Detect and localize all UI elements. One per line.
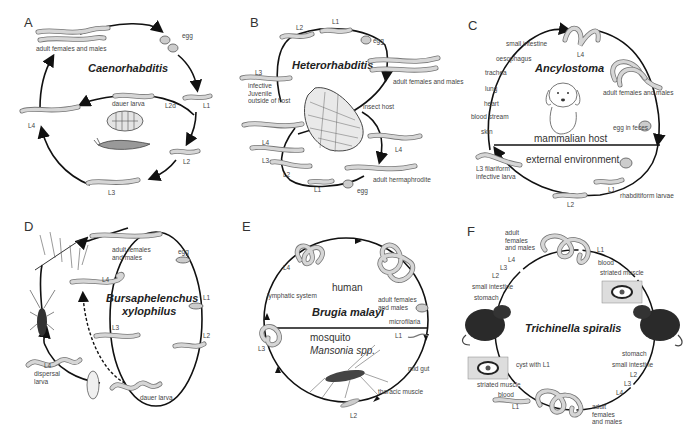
muscle-cyst-illustration-bottom <box>468 357 508 379</box>
organism-title-d-line1: Bursaphelenchus <box>106 292 198 304</box>
label-e-human: human <box>332 282 363 293</box>
egg-icon <box>343 180 353 188</box>
panel-letter-b: B <box>250 15 259 30</box>
nematode-life-cycle-figure: A adult females and males egg Caenorhabd… <box>0 0 688 439</box>
label-f-cyst: cyst with L1 <box>516 361 550 369</box>
arrow-l1-to-l2 <box>188 112 196 142</box>
label-f-l2-top: L2 <box>492 272 500 279</box>
label-c-adults: adult females and males <box>603 89 674 96</box>
label-b-herm: adult hermaphrodite <box>373 176 431 184</box>
label-c-small-intestine: small intestine <box>506 40 548 47</box>
arrow-l2-to-l3 <box>152 160 176 178</box>
panel-letter-e: E <box>242 219 251 234</box>
label-f-l4-top: L4 <box>508 256 516 263</box>
label-a-dauer: dauer larva <box>112 100 145 107</box>
label-a-l3: L3 <box>108 189 116 196</box>
trichinella-adults-bottom <box>538 391 581 415</box>
label-c-lung: lung <box>485 85 498 93</box>
label-d-egg: egg <box>178 248 189 256</box>
organism-title-c: Ancylostoma <box>534 62 604 74</box>
egg-icon <box>361 36 371 44</box>
organism-title-d-line2: xylophilus <box>121 305 176 317</box>
label-f-adults-top: adult females and males <box>505 229 555 257</box>
label-e-mosquito: mosquito <box>310 332 351 343</box>
label-c-rhabditiform: rhabditiform larvae <box>620 192 674 199</box>
label-b-l1-top: L1 <box>332 18 340 25</box>
beetle-illustration <box>30 290 55 336</box>
label-f-l3-right: L3 <box>624 380 632 387</box>
label-e-midgut: mid gut <box>408 365 430 373</box>
label-e-l2: L2 <box>350 412 358 419</box>
label-f-blood-top: blood <box>598 259 614 266</box>
label-e-mansonia: Mansonia spp. <box>310 345 375 356</box>
line-d-beetle <box>41 265 43 310</box>
label-f-striated-muscle-bottom: striated muscle <box>477 381 521 388</box>
label-f-l4-right: L4 <box>616 389 624 396</box>
organism-title-b: Heterorhabditis <box>292 59 373 71</box>
label-c-l2: L2 <box>567 201 575 208</box>
rat-illustration-left <box>463 305 511 345</box>
egg-icon <box>620 158 632 168</box>
label-f-l1-bottom: L1 <box>512 403 520 410</box>
label-f-l1-top: L1 <box>597 246 605 253</box>
label-a-l2d: L2d <box>165 102 176 109</box>
panel-a: A adult females and males egg Caenorhabd… <box>22 15 211 196</box>
egg-icon <box>168 44 178 52</box>
label-b-egg-bottom: egg <box>357 187 368 195</box>
adult-worms-a <box>38 28 108 40</box>
label-b-egg-top: egg <box>373 37 384 45</box>
arrow-egg-to-l1 <box>178 55 197 88</box>
puppy-illustration <box>546 83 580 134</box>
label-e-l3: L3 <box>258 345 266 352</box>
label-d-l4: L4 <box>102 276 110 283</box>
label-b-infective-juvenile: infective Juvenile outside of host <box>248 82 292 118</box>
label-d-adults: adult females and males <box>112 246 162 266</box>
label-c-mammalian-host: mammalian host <box>534 133 608 144</box>
label-f-l2-right: L2 <box>630 371 638 378</box>
hookworm-adults-illustration <box>565 28 660 88</box>
label-e-l1: L1 <box>395 332 403 339</box>
label-d-l1: L1 <box>203 294 211 301</box>
label-a-egg: egg <box>182 32 193 40</box>
insect-grub-illustration <box>304 88 363 152</box>
label-d-dispersal-larva: dispersal larva <box>34 370 74 390</box>
rat-illustration-right <box>633 305 682 346</box>
label-f-small-intestine-right: small intestine <box>612 361 654 368</box>
label-e-thoracic-muscle: thoracic muscle <box>378 388 424 395</box>
label-f-stomach-right: stomach <box>622 350 647 357</box>
panel-d: D adult females and males egg L4 Bursaph… <box>24 219 211 406</box>
muscle-cyst-illustration-top <box>602 281 642 303</box>
organism-title-e: Brugia malayi <box>312 306 385 318</box>
label-a-l2: L2 <box>183 158 191 165</box>
pupa-illustration <box>87 371 99 399</box>
label-c-heart: heart <box>484 100 499 107</box>
label-d-l3: L3 <box>112 324 120 331</box>
label-a-l1: L1 <box>203 102 211 109</box>
label-d-l2: L2 <box>203 332 211 339</box>
egg-icon <box>176 257 190 263</box>
label-e-microfilaria: microfilaria <box>389 318 421 325</box>
panel-letter-f: F <box>467 224 475 239</box>
panel-e: E L4 human lymphatic system adult female… <box>242 219 430 419</box>
label-a-adults: adult females and males <box>36 45 107 52</box>
label-a-l4: L4 <box>28 122 36 129</box>
label-b-adults: adult females and males <box>393 78 464 85</box>
arrow-l4-to-adult <box>40 58 52 108</box>
label-b-l4-right: L4 <box>395 146 403 153</box>
organism-title-f: Trichinella spiralis <box>525 322 621 334</box>
label-c-oesophagus: oesophagus <box>496 55 532 63</box>
label-f-adults-bottom: adult females and males <box>592 403 642 431</box>
organism-title-a: Caenorhabditis <box>88 62 168 74</box>
egg-icon <box>160 36 170 44</box>
panel-f: F adult females and males L4 L3 L2 small… <box>463 224 682 431</box>
label-f-l3-top: L3 <box>500 264 508 271</box>
egg-icon <box>416 304 428 312</box>
label-f-striated-muscle-top: striated muscle <box>600 269 644 276</box>
panel-letter-d: D <box>24 219 33 234</box>
label-c-blood-stream: blood stream <box>471 113 509 120</box>
label-f-stomach-top: stomach <box>474 294 499 301</box>
label-c-l3-filariform: L3 filariform infective larva <box>476 165 536 189</box>
arrow-l3-to-l4 <box>42 130 90 185</box>
label-c-l4: L4 <box>577 51 585 58</box>
label-d-l4-dispersal: L4 <box>44 362 52 369</box>
